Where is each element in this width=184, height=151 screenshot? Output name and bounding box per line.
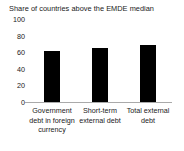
x-axis-label-government-debt-in-foreign-currency: Government debt in foreign currency <box>28 106 76 135</box>
bar-slot <box>28 20 76 103</box>
bar-slot <box>124 20 172 103</box>
x-axis-labels: Government debt in foreign currency Shor… <box>28 106 172 135</box>
x-axis-line <box>25 102 172 103</box>
plot-area: 100 80 60 40 20 0 <box>28 20 172 103</box>
bar-short-term-external-debt <box>92 48 108 103</box>
x-axis-label-line: external debt <box>77 116 123 126</box>
x-axis-label-line: Short-term <box>77 106 123 116</box>
bars-layer <box>28 20 172 103</box>
chart-title: Share of countries above the EMDE median <box>9 4 154 13</box>
x-axis-label-total-external-debt: Total external debt <box>124 106 172 135</box>
y-axis-tick-20: 20 <box>17 82 25 90</box>
y-axis-tick-40: 40 <box>17 66 25 74</box>
y-axis-tick-100: 100 <box>13 16 25 24</box>
y-axis-tick-0: 0 <box>21 99 25 107</box>
x-axis-label-line: currency <box>29 125 75 135</box>
bar-slot <box>76 20 124 103</box>
x-axis-label-short-term-external-debt: Short-term external debt <box>76 106 124 135</box>
chart-figure: Share of countries above the EMDE median… <box>0 0 184 151</box>
bar-total-external-debt <box>140 45 156 103</box>
x-axis-label-line: Government <box>29 106 75 116</box>
x-axis-label-line: Total external <box>125 106 171 116</box>
y-axis-tick-60: 60 <box>17 49 25 57</box>
y-axis-tick-80: 80 <box>17 33 25 41</box>
x-axis-label-line: debt <box>125 116 171 126</box>
bar-government-debt-in-foreign-currency <box>44 51 60 103</box>
x-axis-label-line: debt in foreign <box>29 116 75 126</box>
